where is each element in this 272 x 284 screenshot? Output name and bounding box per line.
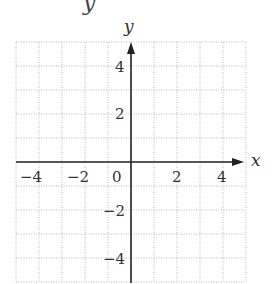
y-tick-label: −2 [103,204,125,219]
x-tick-label: 0 [112,170,122,185]
y-tick-label: 2 [115,107,125,122]
x-axis-arrow-icon [232,158,244,166]
y-tick-label: −4 [103,252,125,267]
x-tick-label: −4 [20,170,42,185]
y-tick-label: 4 [115,60,125,75]
x-axis [16,158,244,166]
coordinate-grid [0,0,272,284]
x-tick-label: 2 [172,170,182,185]
x-tick-label: 4 [217,170,227,185]
y-axis-arrow-icon [127,42,135,54]
x-tick-label: −2 [67,170,89,185]
y-axis-label: y [124,18,134,35]
x-axis-label: x [251,152,261,169]
